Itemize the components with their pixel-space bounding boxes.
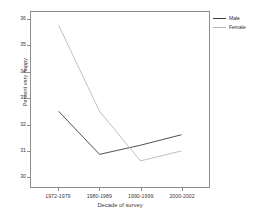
x-tick-mark xyxy=(182,188,183,191)
legend-item-male: Male xyxy=(213,14,259,23)
x-tick-mark xyxy=(141,188,142,191)
series-line-female xyxy=(59,25,182,161)
x-tick-label: 1990-1999 xyxy=(118,193,164,199)
legend: Male Female xyxy=(213,14,259,32)
legend-label-male: Male xyxy=(229,16,240,21)
x-tick-label: 2000-2002 xyxy=(159,193,205,199)
y-tick-label: 33 xyxy=(12,95,26,100)
series-canvas xyxy=(31,12,209,187)
y-tick-label: 32 xyxy=(12,122,26,127)
legend-line-swatch-male xyxy=(213,18,226,19)
x-tick-mark xyxy=(58,188,59,191)
legend-line-swatch-female xyxy=(213,27,226,28)
series-line-male xyxy=(59,111,182,154)
legend-item-female: Female xyxy=(213,23,259,32)
y-tick-label: 36 xyxy=(12,16,26,21)
y-tick-label: 30 xyxy=(12,174,26,179)
x-axis-title: Decade of survey xyxy=(30,202,210,208)
y-axis: Percent very happy 30313233343536 xyxy=(12,11,30,188)
y-tick-label: 34 xyxy=(12,69,26,74)
x-axis: 1972-19791980-19891990-19992000-2002 Dec… xyxy=(30,188,210,218)
x-tick-mark xyxy=(99,188,100,191)
y-tick-label: 35 xyxy=(12,42,26,47)
x-tick-label: 1980-1989 xyxy=(76,193,122,199)
y-tick-label: 31 xyxy=(12,148,26,153)
line-chart: Percent very happy 30313233343536 1972-1… xyxy=(0,0,261,219)
legend-label-female: Female xyxy=(229,25,246,30)
x-tick-label: 1972-1979 xyxy=(35,193,81,199)
plot-area xyxy=(30,11,210,188)
